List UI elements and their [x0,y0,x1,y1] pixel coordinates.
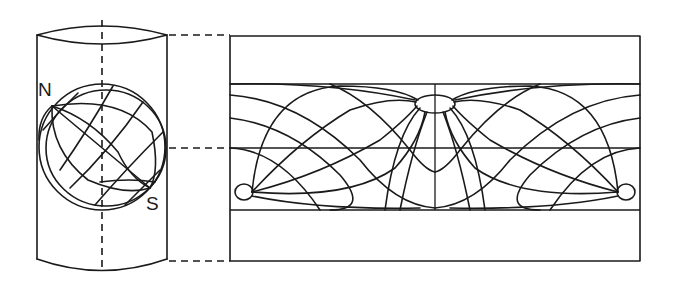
connectors [169,35,230,261]
south-pole-marker-right [617,184,635,200]
south-label: S [146,193,159,214]
cylinder [37,20,167,272]
projection-map [230,36,640,261]
projection-diagram: N S [0,0,676,287]
north-label: N [38,79,52,100]
south-pole-marker-left [235,184,253,200]
